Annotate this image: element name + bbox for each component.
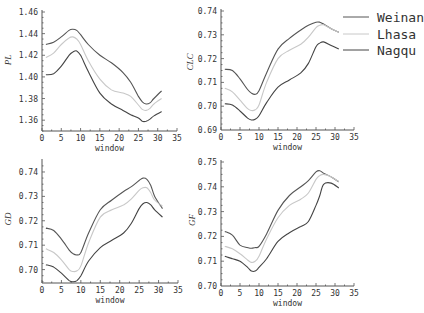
y-tick-label: 1.40 [19, 73, 38, 82]
x-tick-label: 25 [134, 134, 144, 143]
x-tick-label: 35 [173, 286, 183, 295]
y-tick-label: 0.74 [198, 7, 217, 16]
y-tick-label: 0.70 [19, 266, 38, 275]
x-tick-label: 10 [254, 133, 264, 142]
panel-pl: 05101520253035window1.361.381.401.421.44… [3, 8, 182, 153]
y-axis-title: GF [187, 214, 197, 226]
y-tick-label: 0.71 [198, 78, 217, 87]
y-tick-label: 0.73 [198, 208, 217, 217]
series-line-weinan [225, 171, 339, 249]
x-tick-label: 5 [59, 286, 64, 295]
y-tick-label: 1.44 [19, 30, 38, 39]
panel-gf: 05101520253035window0.700.710.720.730.74… [187, 158, 359, 308]
x-axis-title: window [95, 144, 124, 153]
x-tick-label: 20 [292, 289, 302, 298]
y-tick-label: 0.73 [19, 192, 38, 201]
y-tick-label: 0.71 [198, 257, 217, 266]
x-tick-label: 5 [238, 133, 243, 142]
x-tick-label: 15 [273, 133, 283, 142]
x-tick-label: 35 [349, 289, 359, 298]
x-tick-label: 15 [95, 286, 105, 295]
y-tick-label: 1.36 [19, 116, 38, 125]
figure: 05101520253035window1.361.381.401.421.44… [0, 0, 424, 313]
y-axis-title: GD [3, 212, 13, 225]
y-tick-label: 0.69 [198, 126, 217, 135]
x-tick-label: 20 [115, 286, 125, 295]
x-axis-title: window [273, 143, 302, 152]
series-line-nagqu [46, 51, 162, 122]
legend-label-weinan: Weinan [377, 10, 424, 25]
series-line-weinan [225, 22, 339, 95]
y-axis-title: CLC [185, 52, 195, 70]
x-tick-label: 0 [219, 289, 224, 298]
y-tick-label: 0.71 [19, 241, 38, 250]
x-tick-label: 30 [153, 134, 163, 143]
y-tick-label: 1.46 [19, 8, 38, 17]
x-tick-label: 10 [254, 289, 264, 298]
panel-gd: 05101520253035window0.700.710.720.730.74… [3, 159, 183, 305]
x-tick-label: 30 [154, 286, 164, 295]
x-tick-label: 0 [40, 286, 45, 295]
legend-label-nagqu: Nagqu [377, 43, 416, 58]
y-tick-label: 0.72 [19, 217, 38, 226]
x-tick-label: 35 [349, 133, 359, 142]
y-tick-label: 0.72 [198, 232, 217, 241]
panel-clc: 05101520253035window0.690.700.710.720.73… [185, 7, 359, 152]
x-axis-title: window [273, 299, 302, 308]
y-tick-label: 0.72 [198, 55, 217, 64]
y-tick-label: 0.70 [198, 102, 217, 111]
x-tick-label: 5 [238, 289, 243, 298]
y-tick-label: 1.42 [19, 51, 38, 60]
chart-panels: 05101520253035window1.361.381.401.421.44… [3, 7, 359, 308]
y-tick-label: 0.74 [198, 183, 217, 192]
x-axis-title: window [96, 296, 125, 305]
x-tick-label: 0 [40, 134, 45, 143]
y-tick-label: 1.38 [19, 95, 38, 104]
x-tick-label: 0 [219, 133, 224, 142]
series-line-nagqu [225, 183, 339, 272]
x-tick-label: 20 [114, 134, 124, 143]
x-tick-label: 10 [76, 286, 86, 295]
x-tick-label: 15 [95, 134, 105, 143]
y-tick-label: 0.73 [198, 31, 217, 40]
series-line-lhasa [46, 187, 163, 271]
x-tick-label: 25 [311, 133, 321, 142]
series-line-weinan [46, 178, 163, 255]
x-tick-label: 10 [76, 134, 86, 143]
x-tick-label: 20 [292, 133, 302, 142]
legend-label-lhasa: Lhasa [377, 27, 416, 42]
series-line-lhasa [46, 37, 162, 111]
series-line-weinan [46, 29, 162, 104]
x-tick-label: 25 [134, 286, 144, 295]
x-tick-label: 35 [172, 134, 182, 143]
x-tick-label: 15 [273, 289, 283, 298]
x-tick-label: 5 [59, 134, 64, 143]
legend: Weinan Lhasa Nagqu [343, 10, 424, 58]
y-tick-label: 0.75 [198, 158, 217, 167]
y-axis-title: PL [3, 55, 13, 67]
x-tick-label: 30 [330, 133, 340, 142]
x-tick-label: 30 [330, 289, 340, 298]
series-line-lhasa [225, 25, 339, 111]
y-tick-label: 0.74 [19, 168, 38, 177]
x-tick-label: 25 [311, 289, 321, 298]
y-tick-label: 0.70 [198, 282, 217, 291]
